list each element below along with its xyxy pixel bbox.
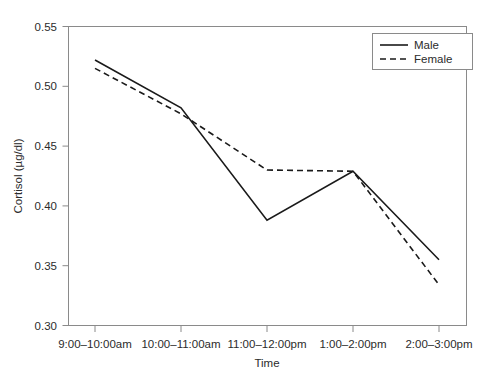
y-tick-label: 0.45 — [35, 140, 57, 152]
y-tick-label: 0.30 — [35, 320, 57, 332]
legend-label-male: Male — [414, 39, 439, 51]
legend: Male Female — [373, 34, 473, 70]
x-tick-label: 11:00–12:00pm — [227, 338, 306, 350]
x-axis-ticks — [95, 326, 439, 333]
y-tick-label: 0.55 — [35, 21, 57, 33]
cortisol-line-chart: 0.55 0.50 0.45 0.40 0.35 0.30 9:00–10:00… — [0, 0, 490, 378]
x-tick-label: 9:00–10:00am — [58, 338, 132, 350]
y-tick-label: 0.50 — [35, 80, 57, 92]
x-axis-title: Time — [254, 357, 279, 369]
y-axis-title: Cortisol (µg/dl) — [12, 138, 24, 213]
plot-frame — [69, 27, 467, 326]
y-axis-tick-labels: 0.55 0.50 0.45 0.40 0.35 0.30 — [35, 21, 57, 332]
data-series-group — [95, 60, 439, 285]
x-tick-label: 10:00–11:00am — [141, 338, 220, 350]
x-tick-label: 2:00–3:00pm — [405, 338, 472, 350]
legend-label-female: Female — [414, 53, 452, 65]
x-tick-label: 1:00–2:00pm — [319, 338, 386, 350]
x-axis-tick-labels: 9:00–10:00am 10:00–11:00am 11:00–12:00pm… — [58, 338, 472, 350]
y-tick-label: 0.35 — [35, 260, 57, 272]
series-line-male — [95, 60, 439, 260]
y-tick-label: 0.40 — [35, 200, 57, 212]
y-axis-ticks — [63, 27, 69, 326]
series-line-female — [95, 68, 439, 284]
